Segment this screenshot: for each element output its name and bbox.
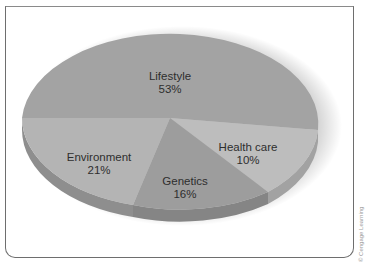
label-lifestyle-name: Lifestyle [149,70,191,83]
label-genetics-pct: 16% [162,188,207,201]
label-healthcare-pct: 10% [219,154,278,167]
label-environment: Environment 21% [67,151,132,177]
label-genetics-name: Genetics [162,175,207,188]
label-healthcare-name: Health care [219,141,278,154]
label-genetics: Genetics 16% [162,175,207,201]
copyright-credit: © Cengage Learning [358,207,364,262]
label-healthcare: Health care 10% [219,141,278,167]
pie-chart [0,0,367,269]
label-lifestyle: Lifestyle 53% [149,70,191,96]
label-lifestyle-pct: 53% [149,83,191,96]
label-environment-name: Environment [67,151,132,164]
label-environment-pct: 21% [67,164,132,177]
